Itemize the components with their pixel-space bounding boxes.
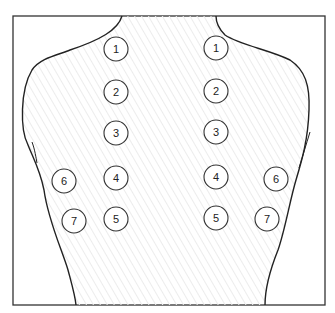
point-label: 6 [273,173,279,185]
back-diagram: 12345671234567 [0,0,335,313]
auscultation-point: 1 [204,36,228,60]
auscultation-point: 5 [104,207,128,231]
point-label: 5 [213,212,219,224]
point-label: 3 [113,127,119,139]
point-label: 1 [213,42,219,54]
point-label: 5 [113,213,119,225]
auscultation-point: 6 [264,167,288,191]
auscultation-point: 2 [104,80,128,104]
auscultation-point: 7 [255,207,279,231]
point-label: 2 [213,85,219,97]
auscultation-point: 4 [104,166,128,190]
auscultation-point: 2 [204,79,228,103]
point-label: 7 [71,215,77,227]
point-label: 2 [113,86,119,98]
auscultation-point: 4 [204,165,228,189]
auscultation-point: 6 [52,169,76,193]
point-label: 6 [61,175,67,187]
point-label: 3 [213,126,219,138]
auscultation-point: 1 [104,37,128,61]
point-label: 7 [264,213,270,225]
auscultation-point: 3 [204,120,228,144]
point-label: 4 [213,171,219,183]
point-label: 1 [113,43,119,55]
auscultation-point: 3 [104,121,128,145]
auscultation-point: 7 [62,209,86,233]
point-label: 4 [113,172,119,184]
auscultation-point: 5 [204,206,228,230]
